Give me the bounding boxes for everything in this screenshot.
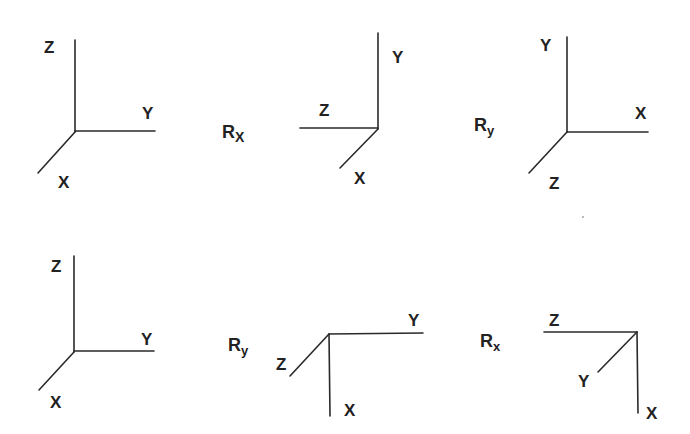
operator-subscript: y xyxy=(487,123,494,138)
operator-base: R xyxy=(480,331,493,351)
frame-6-x-label: X xyxy=(646,405,657,422)
operator-base: R xyxy=(228,335,241,355)
frame-3-z-label: Z xyxy=(549,175,559,192)
frame-6-axes xyxy=(544,332,638,413)
operator-subscript: x xyxy=(493,339,500,354)
frame-1-z-label: Z xyxy=(44,39,54,56)
frame-1-y-label: Y xyxy=(142,105,153,122)
frame-4-x-label: X xyxy=(50,394,61,411)
rotation-operator-1: RX xyxy=(222,123,244,144)
frame-4-y-label: Y xyxy=(141,331,152,348)
frame-2-x-label: X xyxy=(354,170,365,187)
scan-speck xyxy=(582,216,584,218)
operator-base: R xyxy=(222,122,235,142)
frame-2-z-label: Z xyxy=(319,102,329,119)
rotation-operator-4: Rx xyxy=(480,332,500,353)
frame-2-axes xyxy=(300,33,378,168)
frame-4-z-label: Z xyxy=(51,258,61,275)
frame-3-axes xyxy=(529,37,648,173)
frame-5-y-label: Y xyxy=(408,312,419,329)
frame-5-z-label: Z xyxy=(276,356,286,373)
rotation-operator-3: Ry xyxy=(228,336,248,357)
rotation-diagram xyxy=(0,0,690,434)
frame-5-x-label: X xyxy=(344,402,355,419)
frame-2-y-label: Y xyxy=(392,49,403,66)
operator-subscript: X xyxy=(235,129,244,145)
frame-6-z-label: Z xyxy=(549,312,559,329)
frame-3-x-label: X xyxy=(635,105,646,122)
operator-base: R xyxy=(474,115,487,135)
frame-6-y-label: Y xyxy=(578,373,589,390)
frame-4-axes xyxy=(39,256,154,390)
frame-3-y-label: Y xyxy=(540,37,551,54)
frame-1-x-label: X xyxy=(58,174,69,191)
rotation-operator-2: Ry xyxy=(474,116,494,137)
operator-subscript: y xyxy=(241,343,248,358)
frame-1-axes xyxy=(38,40,155,173)
frame-5-axes xyxy=(290,333,423,416)
